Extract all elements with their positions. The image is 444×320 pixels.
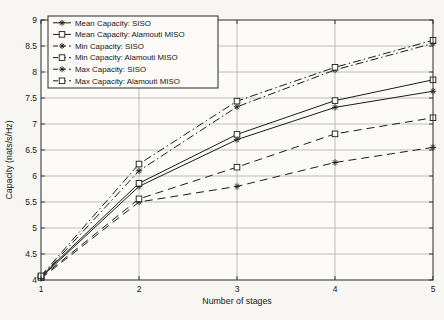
legend: Mean Capacity: SISOMean Capacity: Alamou… bbox=[48, 16, 218, 88]
square-marker bbox=[234, 132, 240, 138]
y-tick-label: 8 bbox=[32, 67, 37, 77]
y-tick-label: 5.5 bbox=[25, 197, 37, 207]
y-tick-label: 7.5 bbox=[25, 93, 37, 103]
square-marker bbox=[59, 78, 65, 84]
y-tick-label: 4 bbox=[32, 275, 37, 285]
x-tick-label: 3 bbox=[235, 284, 240, 294]
square-marker bbox=[59, 32, 65, 38]
y-tick-label: 6 bbox=[32, 171, 37, 181]
asterisk-marker bbox=[59, 66, 65, 72]
y-tick-label: 7 bbox=[32, 119, 37, 129]
asterisk-marker bbox=[59, 43, 65, 49]
y-tick-label: 5 bbox=[32, 223, 37, 233]
y-tick-label: 8.5 bbox=[25, 41, 37, 51]
legend-label: Mean Capacity: Alamouti MISO bbox=[75, 30, 185, 39]
legend-label: Max Capacity: SISO bbox=[75, 65, 146, 74]
x-tick-label: 5 bbox=[431, 284, 436, 294]
square-marker bbox=[332, 98, 338, 104]
legend-label: Min Capacity: SISO bbox=[75, 42, 144, 51]
legend-label: Max Capacity: Alamouti MISO bbox=[75, 77, 180, 86]
square-marker bbox=[332, 131, 338, 137]
chart-canvas: 1234544.555.566.577.588.59Number of stag… bbox=[0, 0, 444, 320]
square-marker bbox=[136, 180, 142, 186]
legend-label: Min Capacity: Alamouti MISO bbox=[75, 53, 178, 62]
square-marker bbox=[234, 98, 240, 104]
x-tick-label: 1 bbox=[39, 284, 44, 294]
y-tick-label: 6.5 bbox=[25, 145, 37, 155]
y-tick-label: 9 bbox=[32, 15, 37, 25]
square-marker bbox=[59, 55, 65, 61]
asterisk-marker bbox=[136, 168, 142, 174]
square-marker bbox=[136, 161, 142, 167]
y-axis-label: Capacity (nats/s/Hz) bbox=[4, 120, 14, 199]
legend-label: Mean Capacity: SISO bbox=[75, 19, 151, 28]
asterisk-marker bbox=[234, 104, 240, 110]
square-marker bbox=[332, 65, 338, 71]
y-tick-label: 4.5 bbox=[25, 249, 37, 259]
square-marker bbox=[136, 196, 142, 202]
square-marker bbox=[234, 164, 240, 170]
x-axis-label: Number of stages bbox=[202, 296, 272, 306]
x-tick-label: 2 bbox=[137, 284, 142, 294]
capacity-vs-stages-figure: 1234544.555.566.577.588.59Number of stag… bbox=[0, 0, 444, 320]
x-tick-label: 4 bbox=[333, 284, 338, 294]
asterisk-marker bbox=[234, 183, 240, 189]
